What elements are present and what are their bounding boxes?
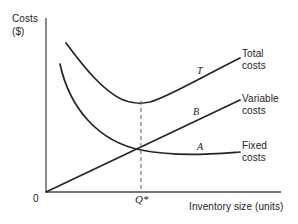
series-label-variable-costs-line1: Variable: [242, 93, 279, 104]
series-label-variable-costs-line2: costs: [242, 105, 266, 116]
y-axis-label-line1: Costs: [12, 13, 38, 24]
curve-marker-total-costs: T: [197, 66, 203, 76]
total-costs-curve: [66, 43, 240, 103]
cost-curve-figure: Costs ($) 0 Q* Inventory size (units) To…: [0, 0, 298, 224]
curve-marker-variable-costs: B: [193, 107, 199, 117]
origin-tick-label: 0: [33, 193, 39, 204]
series-label-total-costs-line2: costs: [242, 60, 266, 71]
fixed-costs-curve: [60, 64, 240, 154]
series-label-fixed-costs-line2: costs: [242, 152, 266, 163]
curve-marker-fixed-costs: A: [197, 142, 203, 152]
y-axis-label-line2: ($): [12, 26, 25, 37]
variable-costs-line: [46, 100, 240, 192]
series-label-total-costs-line1: Total: [242, 48, 264, 59]
series-label-fixed-costs-line1: Fixed: [242, 140, 267, 151]
optimum-tick-label: Q*: [135, 194, 149, 205]
x-axis-label: Inventory size (units): [189, 201, 283, 212]
